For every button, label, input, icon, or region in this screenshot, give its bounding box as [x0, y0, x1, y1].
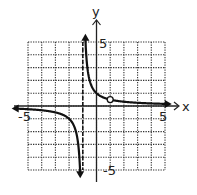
- x-axis-label: x: [182, 99, 190, 114]
- right-branch-up-arrow-icon: [81, 34, 89, 41]
- x-max-label: 5: [159, 109, 167, 124]
- graph-figure: y x 5 -5 -5 5: [0, 0, 197, 195]
- function-graph: y x 5 -5 -5 5: [0, 0, 197, 195]
- right-branch-arrow-icon: [165, 100, 172, 108]
- hole-point: [107, 97, 113, 103]
- y-axis-label: y: [92, 4, 100, 19]
- left-branch-down-arrow-icon: [76, 171, 84, 178]
- y-min-label: -5: [103, 163, 116, 178]
- right-branch-curve: [85, 39, 167, 104]
- y-max-label: 5: [99, 36, 107, 51]
- x-min-label: -5: [18, 109, 31, 124]
